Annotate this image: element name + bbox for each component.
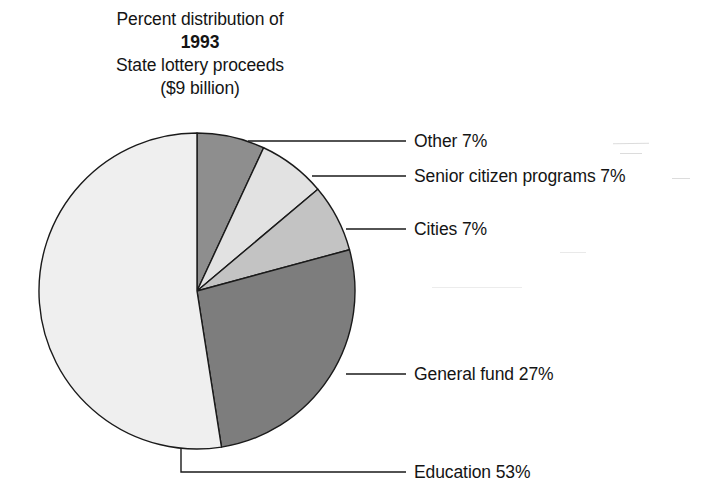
pie-slice-group	[39, 133, 355, 449]
slice-label-senior-citizen-programs: Senior citizen programs 7%	[414, 166, 625, 186]
slice-label-general-fund: General fund 27%	[414, 364, 553, 384]
scan-artifact-mark	[672, 178, 690, 179]
leader-line-education	[181, 448, 406, 472]
pie-slice-education	[39, 133, 221, 449]
scan-artifact-mark	[432, 287, 522, 288]
slice-label-education: Education 53%	[414, 462, 530, 482]
pie-chart-figure: Percent distribution of 1993 State lotte…	[0, 0, 714, 490]
slice-label-cities: Cities 7%	[414, 219, 487, 239]
scan-artifact-mark	[620, 153, 642, 154]
pie-canvas	[0, 0, 714, 490]
scan-artifact-mark	[560, 252, 586, 253]
slice-label-other: Other 7%	[414, 131, 487, 151]
